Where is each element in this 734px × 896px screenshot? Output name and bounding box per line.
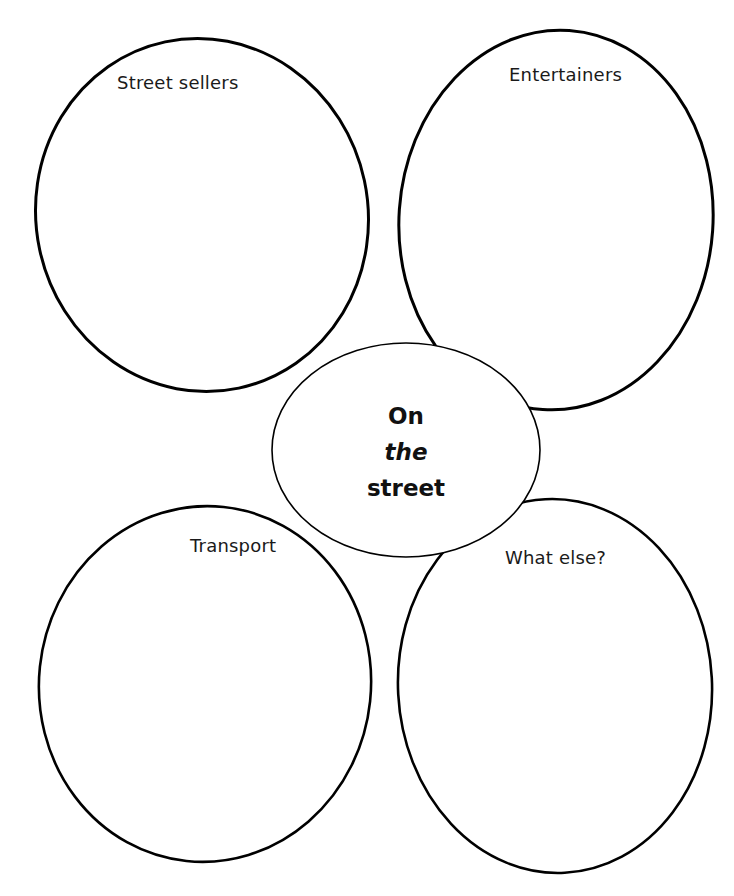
bubble-label-what-else: What else? <box>505 547 606 568</box>
center-title: On the street <box>306 398 506 506</box>
bubble-label-entertainers: Entertainers <box>509 64 622 85</box>
bubble-label-transport: Transport <box>190 535 276 556</box>
bubble-label-street-sellers: Street sellers <box>117 72 239 93</box>
center-title-line-2: the <box>306 434 506 470</box>
center-title-line-1: On <box>306 398 506 434</box>
center-title-line-3: street <box>306 470 506 506</box>
